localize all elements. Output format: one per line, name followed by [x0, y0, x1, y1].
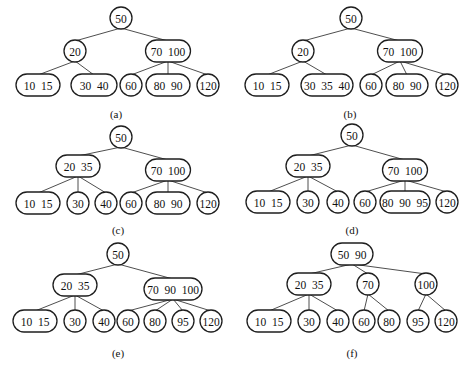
node-keys: 80: [383, 316, 395, 328]
tree-node-circle: 120: [436, 74, 458, 96]
tree-node-pill: 10 15: [246, 191, 290, 213]
tree-panel-e: 5020 3570 90 10010 153040608095120(e): [13, 243, 222, 360]
tree-node-circle: 40: [93, 310, 115, 332]
node-keys: 50: [115, 13, 127, 25]
tree-node-circle: 20: [292, 40, 314, 62]
tree-node-circle: 120: [436, 191, 458, 213]
panel-caption: (f): [347, 347, 358, 360]
tree-node-circle: 120: [197, 192, 219, 214]
node-keys: 20 35: [294, 161, 323, 173]
node-keys: 30: [302, 197, 314, 209]
tree-node-pill: 80 90: [146, 74, 190, 96]
tree-node-pill: 10 15: [16, 192, 60, 214]
node-keys: 50: [112, 249, 124, 261]
tree-node-pill: 70 100: [383, 159, 428, 181]
tree-edge: [38, 176, 78, 193]
tree-edge: [364, 294, 368, 311]
tree-node-circle: 50: [341, 124, 363, 146]
tree-node-pill: 80 90: [386, 74, 428, 96]
node-keys: 95: [177, 316, 189, 328]
tree-node-pill: 80 90: [146, 192, 190, 214]
tree-edge: [426, 294, 446, 311]
tree-node-circle: 30: [64, 310, 86, 332]
tree-edge: [75, 295, 104, 311]
tree-node-circle: 60: [360, 74, 382, 96]
tree-edge: [267, 61, 303, 75]
tree-panel-c: 5020 3570 10010 1530406080 90120(c): [16, 126, 219, 237]
tree-node-pill: 10 15: [16, 74, 60, 96]
tree-edge: [75, 61, 94, 75]
tree-node-circle: 30: [67, 192, 89, 214]
tree-node-circle: 60: [353, 310, 375, 332]
tree-node-pill: 70 100: [378, 40, 423, 62]
node-keys: 30 40: [80, 80, 109, 92]
tree-edge: [173, 299, 211, 311]
node-keys: 80 90 95: [382, 197, 428, 209]
tree-node-circle: 50: [340, 7, 362, 29]
tree-node-circle: 120: [200, 310, 222, 332]
tree-edge: [352, 145, 405, 160]
node-keys: 50: [346, 130, 358, 142]
panel-caption: (d): [346, 224, 359, 237]
panel-caption: (b): [344, 108, 357, 121]
node-keys: 120: [438, 80, 456, 92]
tree-node-circle: 60: [354, 191, 376, 213]
tree-node-circle: 95: [172, 310, 194, 332]
tree-edge: [309, 294, 338, 311]
tree-node-circle: 70: [357, 273, 379, 295]
node-keys: 50 90: [338, 249, 367, 261]
tree-node-circle: 40: [95, 192, 117, 214]
tree-edge: [121, 147, 168, 160]
tree-edge: [78, 176, 106, 193]
tree-node-circle: 40: [327, 310, 349, 332]
node-keys: 120: [199, 80, 217, 92]
tree-node-pill: 70 100: [146, 40, 191, 62]
node-keys: 20 35: [64, 161, 93, 173]
tree-node-circle: 20: [64, 40, 86, 62]
panel-caption: (c): [112, 224, 125, 237]
node-keys: 80 90: [393, 80, 422, 92]
tree-edge: [128, 299, 173, 311]
btree-insertion-figure: 502070 10010 1530 406080 90120(a)502070 …: [0, 0, 470, 365]
node-keys: 10 15: [253, 80, 282, 92]
node-keys: 120: [437, 316, 455, 328]
tree-edge: [371, 61, 400, 75]
tree-node-circle: 50: [110, 126, 132, 148]
tree-edge: [269, 294, 309, 311]
tree-node-pill: 80 90 95: [380, 191, 430, 213]
node-keys: 50: [345, 13, 357, 25]
tree-edge: [38, 61, 75, 75]
node-keys: 80 90: [154, 80, 183, 92]
tree-node-circle: 50: [110, 7, 132, 29]
node-keys: 20: [297, 46, 309, 58]
tree-node-circle: 80: [144, 310, 166, 332]
node-keys: 30: [303, 316, 315, 328]
tree-edge: [35, 295, 75, 311]
tree-node-pill: 20 35: [286, 155, 330, 177]
tree-edge: [418, 294, 426, 311]
tree-edge: [268, 176, 308, 192]
tree-edge: [131, 180, 168, 193]
tree-node-circle: 95: [407, 310, 429, 332]
tree-edge: [351, 28, 400, 41]
node-keys: 20 35: [295, 279, 324, 291]
tree-edge: [303, 28, 351, 41]
tree-node-circle: 30: [298, 310, 320, 332]
tree-node-circle: 50: [107, 243, 129, 265]
node-keys: 10 15: [24, 80, 53, 92]
tree-edge: [75, 28, 121, 41]
tree-node-pill: 10 15: [247, 310, 291, 332]
tree-node-circle: 60: [117, 310, 139, 332]
tree-node-circle: 120: [197, 74, 219, 96]
node-keys: 20: [69, 46, 81, 58]
tree-edge: [155, 299, 173, 311]
node-keys: 60: [125, 80, 137, 92]
node-keys: 80 90: [154, 198, 183, 210]
tree-node-pill: 30 40: [71, 74, 117, 96]
tree-node-pill: 10 15: [13, 310, 57, 332]
tree-edge: [400, 61, 447, 75]
node-keys: 70 100: [151, 165, 186, 177]
node-keys: 60: [359, 197, 371, 209]
node-keys: 100: [417, 279, 435, 291]
tree-node-pill: 20 35: [56, 155, 100, 177]
